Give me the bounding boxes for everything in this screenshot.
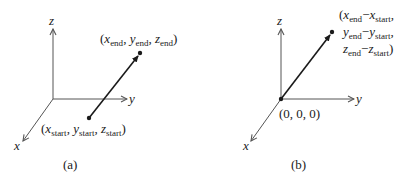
- panel-b-end-label-line2: yend−ystart,: [343, 25, 394, 39]
- panel-a-vector: [87, 51, 142, 120]
- sub-end: end: [160, 38, 173, 48]
- sub-start: start: [106, 128, 122, 138]
- sub-start: start: [375, 31, 391, 41]
- panel-b-x-label: x: [243, 139, 249, 153]
- panel-b-end-label-line1: (xend−xstart,: [339, 8, 394, 22]
- panel-b-x-axis: [251, 99, 281, 141]
- panel-a-y-label: y: [129, 92, 135, 106]
- panel-b-origin-point: [279, 97, 283, 101]
- sub-start: start: [51, 128, 67, 138]
- sub-start: start: [79, 128, 95, 138]
- panel-b-z-label: z: [277, 14, 282, 28]
- sub-end: end: [349, 14, 362, 24]
- panel-a-end-label: (xend, yend, zend): [100, 32, 177, 46]
- panel-a-end-point: [138, 51, 142, 55]
- sub-end: end: [349, 31, 362, 41]
- sub-end: end: [135, 38, 148, 48]
- panel-a-start-point: [87, 116, 91, 120]
- panel-b-caption: (b): [291, 158, 306, 172]
- panel-a-x-label: x: [14, 139, 20, 153]
- sub-end: end: [348, 48, 361, 58]
- panel-b-y-label: y: [356, 92, 362, 106]
- panel-b-end-point: [330, 30, 334, 34]
- panel-b-end-label-line3: zend−zstart): [343, 42, 393, 56]
- panel-b-axes: [251, 29, 354, 141]
- sub-end: end: [110, 38, 123, 48]
- panel-a-z-label: z: [49, 14, 54, 28]
- panel-b-vector: [279, 30, 334, 101]
- sub-start: start: [375, 14, 391, 24]
- panel-b-origin-label: (0, 0, 0): [279, 107, 320, 121]
- panel-a-caption: (a): [63, 158, 77, 172]
- panel-a-start-label: (xstart, ystart, zstart): [41, 122, 126, 136]
- sub-start: start: [373, 48, 389, 58]
